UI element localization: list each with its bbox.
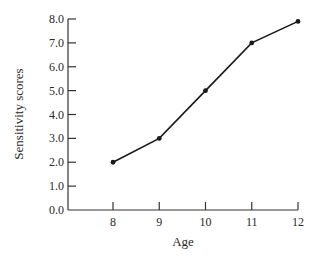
data-points xyxy=(111,19,301,165)
x-axis-ticks: 89101112 xyxy=(110,202,304,229)
y-tick-label: 8.0 xyxy=(49,12,64,26)
data-point xyxy=(203,88,208,93)
y-tick-label: 1.0 xyxy=(49,179,64,193)
y-tick-label: 5.0 xyxy=(49,84,64,98)
data-point xyxy=(157,136,162,141)
data-point xyxy=(296,19,301,24)
y-tick-label: 6.0 xyxy=(49,60,64,74)
x-tick-label: 8 xyxy=(110,215,116,229)
y-tick-label: 2.0 xyxy=(49,155,64,169)
data-point xyxy=(249,40,254,45)
x-tick-label: 9 xyxy=(156,215,162,229)
x-tick-label: 10 xyxy=(200,215,212,229)
x-tick-label: 11 xyxy=(246,215,258,229)
data-point xyxy=(111,160,116,165)
y-tick-label: 7.0 xyxy=(49,36,64,50)
y-axis-title: Sensitivity scores xyxy=(11,68,26,159)
y-axis-ticks: 0.01.02.03.04.05.06.07.08.0 xyxy=(49,12,76,217)
y-tick-label: 3.0 xyxy=(49,131,64,145)
x-tick-label: 12 xyxy=(292,215,304,229)
line-chart: 0.01.02.03.04.05.06.07.08.0 89101112 Age… xyxy=(0,0,319,263)
x-axis-title: Age xyxy=(172,234,194,249)
y-tick-label: 4.0 xyxy=(49,108,64,122)
y-tick-label: 0.0 xyxy=(49,203,64,217)
